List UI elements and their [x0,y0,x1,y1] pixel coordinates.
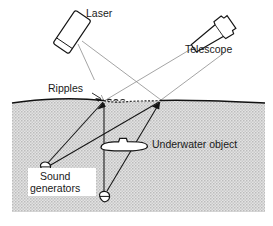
figure-root: Laser Telescope [0,0,273,226]
reflected-beam-left-to-telescope [104,46,196,101]
reflected-beam-right-to-telescope [161,53,224,100]
surface-ripple-crests [107,99,125,100]
sound-generators-label-line2: generators [30,182,80,194]
telescope-label: Telescope [185,43,232,55]
ripples-label: Ripples [48,82,83,94]
sound-generator-right[interactable] [100,191,110,201]
sound-generators-label-line1: Sound [40,170,71,182]
underwater-object-label: Underwater object [152,138,237,150]
telescope-device[interactable]: Telescope [185,13,238,57]
laser-label: Laser [86,7,113,19]
underwater-object[interactable]: Underwater object [101,138,237,151]
laser-device[interactable]: Laser [53,7,113,54]
diagram-canvas: Laser Telescope [0,0,273,226]
